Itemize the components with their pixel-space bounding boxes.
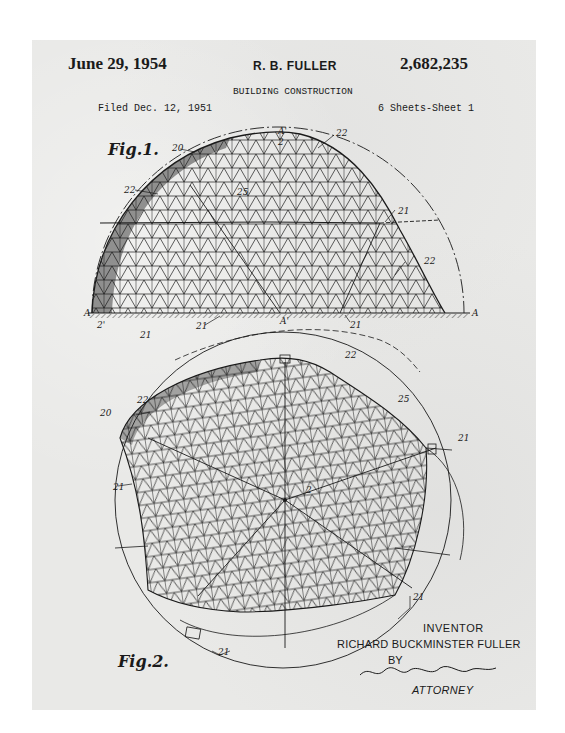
fig1-ref-2-prime: 2' [97, 320, 105, 330]
fig1-ref-25: 25 [237, 187, 248, 197]
fig1-label: Fig.1. [108, 140, 159, 159]
fig2-ref-21a: 21 [458, 433, 469, 443]
fig2-ref-22a: 22 [137, 395, 148, 405]
fig2-label: Fig.2. [118, 652, 169, 671]
fig2-ref-25: 25 [398, 394, 409, 404]
fig2-ref-2: 2 [306, 485, 312, 495]
attorney-label: ATTORNEY [412, 684, 473, 696]
fig1-ref-A-right: A [472, 308, 479, 318]
fig1-ref-22b: 22 [336, 128, 347, 138]
fig1-ref-A1-bottom: A' [280, 316, 289, 326]
fig2-ref-20: 20 [100, 408, 111, 418]
inventor-label: INVENTOR [423, 622, 484, 634]
fig1-ref-21b: 21 [140, 330, 151, 340]
attorney-signature-stroke [360, 666, 496, 675]
fig1-ref-20: 20 [172, 143, 183, 153]
fig2-ref-22b: 22 [345, 350, 356, 360]
fig1-ref-22a: 22 [124, 185, 135, 195]
figure-2 [110, 330, 464, 668]
by-label: BY [388, 654, 403, 666]
fig1-ref-21d: 21 [350, 320, 361, 330]
fig2-ref-21c: 21 [413, 592, 424, 602]
fig1-ref-21c: 21 [196, 321, 207, 331]
inventor-full-name: RICHARD BUCKMINSTER FULLER [337, 638, 521, 650]
fig1-ref-2: 2 [278, 137, 284, 147]
fig1-ref-A-left: A [84, 308, 91, 318]
fig1-ref-21a: 21 [398, 206, 409, 216]
fig1-ref-22c: 22 [424, 256, 435, 266]
fig1-ref-A1: A' [278, 126, 287, 136]
fig2-ref-21b: 21 [113, 482, 124, 492]
fig2-ref-21d: 21 [218, 647, 229, 657]
